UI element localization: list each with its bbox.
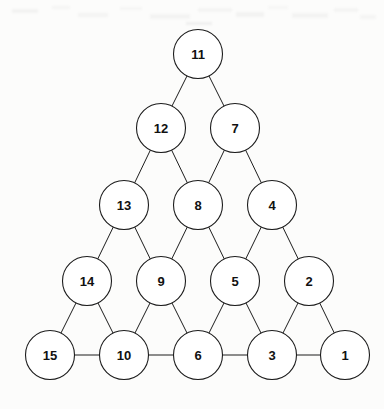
- graph-node-4[interactable]: 4: [248, 181, 297, 230]
- graph-node-3[interactable]: 3: [248, 331, 297, 380]
- node-label-3: 3: [268, 348, 275, 363]
- node-label-2: 2: [305, 274, 312, 289]
- node-label-14: 14: [80, 274, 95, 289]
- graph-edge-11-7: [209, 76, 224, 106]
- graph-edge-4-5: [246, 227, 262, 259]
- graph-edge-8-5: [209, 227, 225, 259]
- graph-node-1[interactable]: 1: [321, 331, 370, 380]
- graph-edge-5-6: [209, 303, 224, 333]
- graph-edge-8-9: [172, 227, 188, 259]
- graph-node-11[interactable]: 11: [174, 30, 223, 79]
- graph-node-10[interactable]: 10: [100, 331, 149, 380]
- graph-edge-14-15: [61, 303, 76, 333]
- node-label-10: 10: [117, 348, 131, 363]
- graph-edge-2-3: [283, 303, 298, 333]
- graph-edge-5-3: [246, 303, 261, 333]
- graph-node-6[interactable]: 6: [174, 331, 223, 380]
- graph-edge-9-6: [172, 303, 187, 333]
- node-label-13: 13: [117, 198, 131, 213]
- graph-node-5[interactable]: 5: [211, 257, 260, 306]
- node-label-1: 1: [341, 348, 348, 363]
- node-layer: 111271384149521510631: [26, 30, 370, 380]
- node-label-4: 4: [268, 198, 276, 213]
- graph-node-12[interactable]: 12: [137, 104, 186, 153]
- node-label-6: 6: [194, 348, 201, 363]
- figure-canvas: 111271384149521510631: [0, 0, 384, 409]
- graph-edge-11-12: [172, 76, 187, 106]
- graph-edge-12-13: [135, 150, 151, 183]
- graph-edge-14-10: [98, 303, 113, 333]
- graph-edge-13-9: [135, 227, 151, 259]
- node-label-5: 5: [231, 274, 238, 289]
- graph-node-9[interactable]: 9: [137, 257, 186, 306]
- graph-edge-7-4: [246, 150, 262, 183]
- node-label-15: 15: [43, 348, 57, 363]
- node-label-7: 7: [231, 121, 238, 136]
- node-label-11: 11: [191, 47, 205, 62]
- graph-node-13[interactable]: 13: [100, 181, 149, 230]
- graph-edge-4-2: [283, 227, 299, 259]
- graph-edge-7-8: [209, 150, 225, 183]
- node-label-12: 12: [154, 121, 168, 136]
- graph-edge-13-14: [98, 227, 114, 259]
- graph-node-14[interactable]: 14: [63, 257, 112, 306]
- graph-edge-2-1: [320, 303, 335, 333]
- node-label-9: 9: [157, 274, 164, 289]
- graph-edge-12-8: [172, 150, 188, 183]
- graph-node-2[interactable]: 2: [285, 257, 334, 306]
- graph-node-7[interactable]: 7: [211, 104, 260, 153]
- triangular-number-graph: 111271384149521510631: [0, 0, 384, 409]
- node-label-8: 8: [194, 198, 201, 213]
- graph-node-8[interactable]: 8: [174, 181, 223, 230]
- graph-node-15[interactable]: 15: [26, 331, 75, 380]
- graph-edge-9-10: [135, 303, 150, 333]
